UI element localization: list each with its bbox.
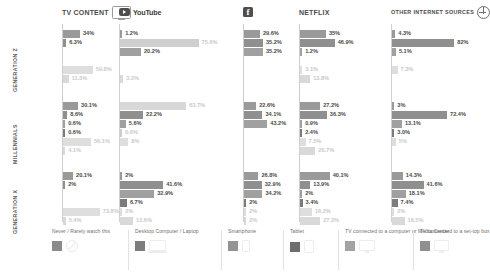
bar-segment	[120, 111, 143, 119]
bar-segment	[300, 217, 320, 225]
legend-swatch-row	[290, 240, 314, 253]
generation-axis-label: GENERATION X	[12, 189, 18, 234]
bar-segment	[120, 138, 128, 146]
bar-row	[119, 66, 239, 74]
bar-segment	[244, 217, 246, 225]
bar-row	[62, 190, 117, 198]
column-header-youtube: YouTube	[119, 2, 161, 22]
bar-value-label: 7.4%	[401, 199, 414, 207]
bar-value-label: 75.6%	[202, 39, 218, 47]
bar-row: 5%	[391, 138, 483, 146]
column-title-other: OTHER INTERNET SOURCES	[391, 9, 474, 15]
bar-row	[299, 57, 389, 65]
bar-row	[243, 129, 297, 137]
bar-row: 40.1%	[299, 172, 389, 180]
bar-row: 13.8%	[299, 75, 389, 83]
bar-row: 0.6%	[62, 120, 117, 128]
legend-divider	[221, 230, 222, 270]
bar-row: 4.1%	[62, 147, 117, 155]
bar-value-label: 3.4%	[306, 199, 319, 207]
bar-value-label: 0.6%	[125, 129, 138, 137]
generation-group: 40.1%13.9%2%3.4%16.2%27.2%	[299, 172, 389, 226]
bar-value-label: 1.2%	[305, 48, 318, 56]
bar-segment	[63, 129, 65, 137]
bar-row: 34.2%	[243, 190, 297, 198]
monitor-icon	[359, 240, 375, 251]
bar-row: 8%	[119, 138, 239, 146]
bar-value-label: 35.2%	[266, 39, 282, 47]
legend-item[interactable]: TV connected to a set-top box	[420, 228, 490, 251]
bar-segment	[300, 190, 302, 198]
legend-item[interactable]: Tablet	[290, 228, 314, 253]
bar-value-label: 22.2%	[146, 111, 162, 119]
bar-value-label: 8%	[131, 138, 139, 146]
bar-value-label: 13.9%	[313, 181, 329, 189]
bar-value-label: 8.6%	[70, 111, 83, 119]
bar-segment	[63, 181, 65, 189]
bar-segment	[300, 39, 335, 47]
bar-segment	[120, 102, 186, 110]
bar-segment	[63, 111, 67, 119]
bar-value-label: 3.0%	[397, 129, 410, 137]
bar-row: 18.1%	[391, 190, 483, 198]
bar-row	[243, 75, 297, 83]
bar-value-label: 5.6%	[129, 120, 142, 128]
bar-row: 5.4%	[62, 217, 117, 225]
generation-group: 1.2%75.6%20.2%3.2%	[119, 30, 239, 84]
bar-value-label: 7.5%	[309, 138, 322, 146]
bar-segment	[120, 172, 122, 180]
bar-row: 5.6%	[119, 120, 239, 128]
bar-segment	[63, 66, 93, 74]
bar-segment	[392, 129, 394, 137]
bar-row: 36.3%	[299, 111, 389, 119]
legend-item[interactable]: Desktop Computer / Laptop	[135, 228, 199, 251]
bar-row: 46.9%	[299, 39, 389, 47]
bar-row: 82%	[391, 39, 483, 47]
legend-item[interactable]: Never / Rarely watch this	[52, 228, 110, 252]
bar-row: 7.4%	[391, 199, 483, 207]
smartphone-icon	[242, 240, 250, 252]
bar-value-label: 2%	[68, 181, 76, 189]
bar-row: 3.1%	[299, 66, 389, 74]
generation-group: 4.3%82%5.1%7.3%	[391, 30, 483, 84]
bar-row: 2%	[119, 208, 239, 216]
bar-value-label: 20.2%	[144, 48, 160, 56]
bar-segment	[120, 199, 127, 207]
bar-value-label: 0.6%	[68, 129, 81, 137]
globe-icon	[477, 6, 490, 19]
bar-segment	[300, 181, 310, 189]
bar-segment	[392, 39, 454, 47]
bar-segment	[392, 217, 405, 225]
bar-row: 30.1%	[62, 102, 117, 110]
bar-value-label: 41.6%	[166, 181, 182, 189]
generation-group: 29.6%35.2%35.2%	[243, 30, 297, 84]
bar-value-label: 36.3%	[330, 111, 346, 119]
bar-segment	[300, 138, 306, 146]
legend-item[interactable]: Smartphone	[228, 228, 256, 252]
bar-row	[243, 147, 297, 155]
bar-segment	[120, 129, 122, 137]
legend-divider	[283, 230, 284, 270]
bar-row: 5.1%	[391, 48, 483, 56]
bar-row: 0.6%	[62, 129, 117, 137]
legend-swatch-row	[420, 240, 490, 251]
column-title-youtube: YouTube	[133, 8, 161, 17]
bar-segment	[392, 66, 398, 74]
generation-group: 63.7%22.2%5.6%0.6%8%	[119, 102, 239, 156]
tablet-icon	[304, 240, 314, 253]
bar-row: 75.6%	[119, 39, 239, 47]
bar-segment	[244, 190, 262, 198]
bar-row: 2%	[299, 190, 389, 198]
bar-segment	[120, 75, 123, 83]
bar-segment	[63, 75, 69, 83]
bar-value-label: 14.3%	[406, 172, 422, 180]
bar-segment	[392, 199, 398, 207]
bar-row: 13.9%	[299, 181, 389, 189]
bar-segment	[392, 138, 396, 146]
column-title-netflix: NETFLIX	[299, 9, 330, 16]
bar-segment	[300, 172, 330, 180]
legend-label: Tablet	[290, 228, 314, 235]
bar-value-label: 2%	[249, 199, 257, 207]
legend-divider	[338, 230, 339, 270]
